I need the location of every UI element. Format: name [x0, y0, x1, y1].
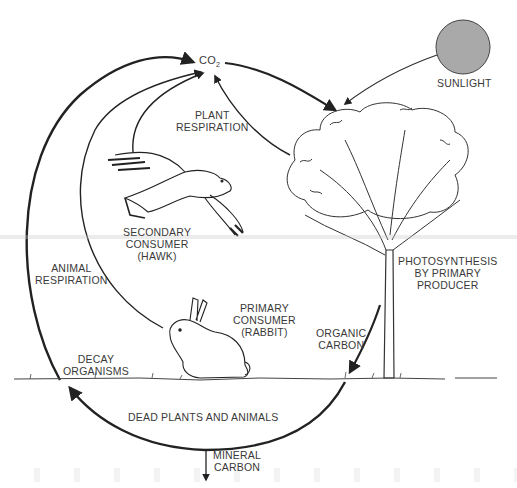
- dead-plants-animals-label: DEAD PLANTS AND ANIMALS: [128, 411, 278, 423]
- secondary-consumer-label: SECONDARY CONSUMER (HAWK): [123, 226, 191, 262]
- co2-label: CO2: [199, 54, 220, 71]
- scan-artifact: [0, 235, 517, 239]
- tree-icon: [287, 103, 468, 378]
- scan-noise-band: [0, 468, 517, 482]
- sun-icon: [436, 20, 490, 74]
- photosynthesis-label: PHOTOSYNTHESIS BY PRIMARY PRODUCER: [398, 255, 497, 291]
- organic-carbon-label: ORGANIC CARBON: [316, 327, 366, 351]
- animal-respiration-label: ANIMAL RESPIRATION: [35, 262, 108, 286]
- hawk-icon: [108, 152, 243, 236]
- arrow-sun-to-tree: [345, 55, 437, 104]
- plant-respiration-label: PLANT RESPIRATION: [176, 109, 249, 133]
- primary-consumer-label: PRIMARY CONSUMER (RABBIT): [233, 302, 296, 338]
- decay-organisms-label: DECAY ORGANISMS: [63, 353, 129, 377]
- arrow-co2-to-tree: [225, 63, 335, 110]
- ground-line: [14, 378, 497, 380]
- sunlight-label: SUNLIGHT: [437, 77, 492, 89]
- arrow-decay-to-co2: [27, 57, 193, 380]
